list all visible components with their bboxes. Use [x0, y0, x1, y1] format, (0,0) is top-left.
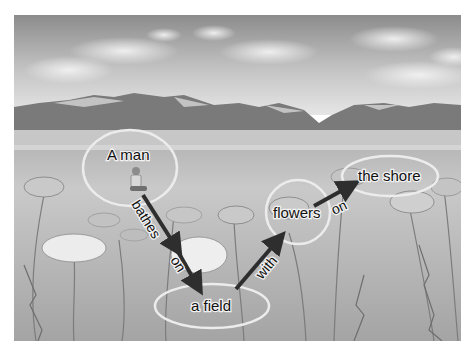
node-label-flowers: flowers: [273, 204, 321, 221]
node-label-field: a field: [191, 297, 231, 314]
node-label-man: A man: [107, 146, 150, 163]
edge-label-on-2: on: [329, 197, 350, 218]
edge-label-on-1: on: [167, 253, 189, 275]
edge-label-with: with: [251, 253, 280, 283]
node-label-shore: the shore: [358, 167, 421, 184]
scene-graph-overlay: A man a field flowers the shore bathes o…: [0, 0, 474, 354]
node-man-ellipse: [83, 130, 177, 206]
